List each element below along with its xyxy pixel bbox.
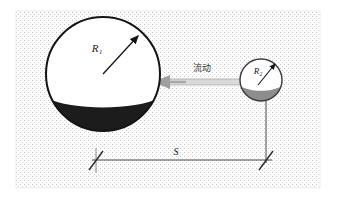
dimension-label: S <box>174 146 179 157</box>
flow-label: 流动 <box>193 62 211 73</box>
flow-tube <box>156 79 244 85</box>
small-sphere-radius-label: R₂ <box>253 66 263 76</box>
diagram-canvas: R₁ R₂ 流动 S <box>0 0 337 203</box>
large-sphere-radius-label: R₁ <box>91 42 103 54</box>
figure-root: R₁ R₂ 流动 S <box>0 0 337 203</box>
